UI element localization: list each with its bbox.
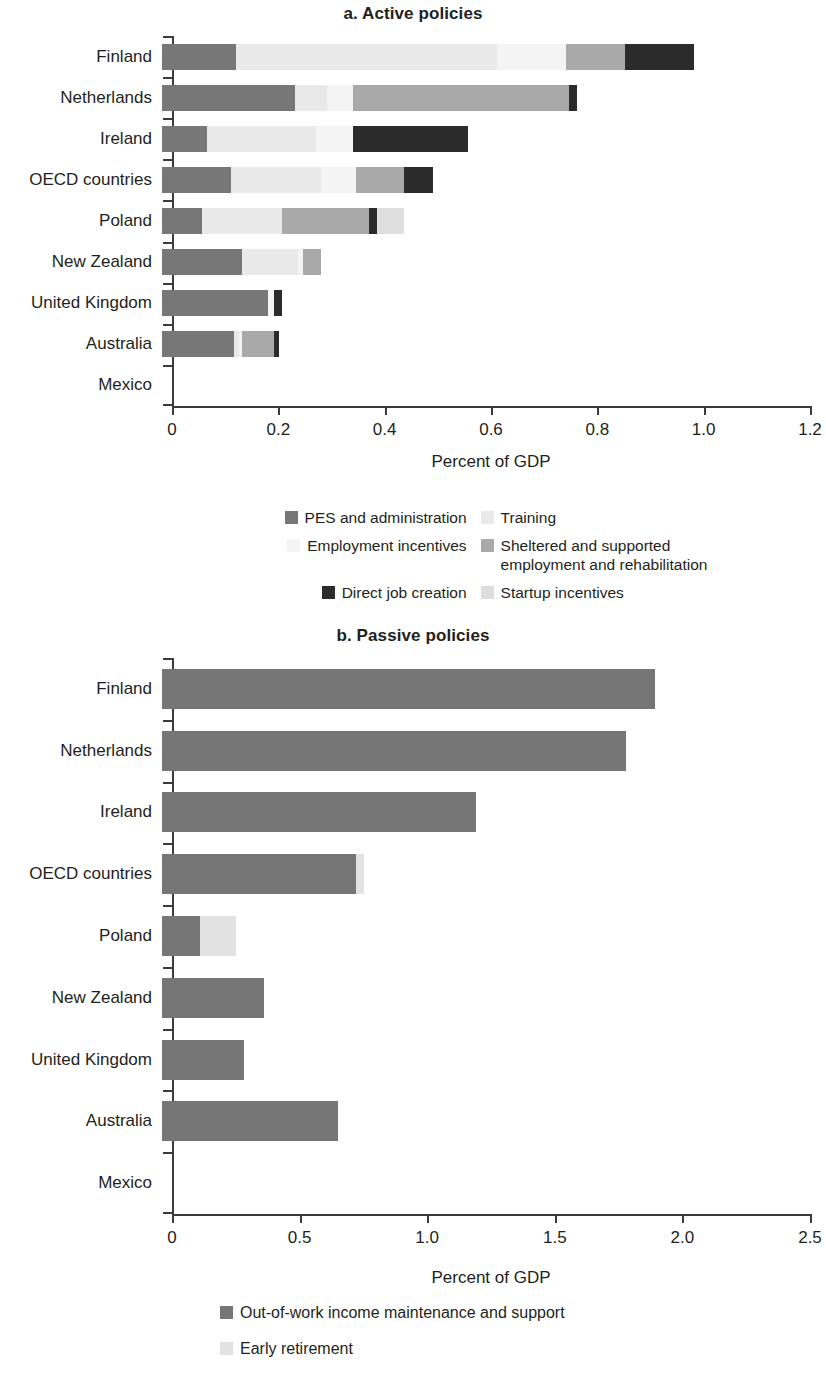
legend-item: Early retirement	[220, 1334, 820, 1364]
chart-bar-row: Australia	[0, 1090, 826, 1152]
x-axis-tick-label: 1.2	[798, 420, 822, 440]
bar-segment	[625, 44, 694, 70]
y-axis-tick	[163, 967, 172, 969]
x-axis-tick-label: 0	[167, 1228, 176, 1248]
stacked-bar	[162, 792, 476, 832]
bar-track	[162, 200, 826, 241]
bar-track	[162, 283, 826, 324]
category-label: Ireland	[0, 802, 162, 822]
legend-swatch-icon	[322, 586, 335, 599]
x-axis-tick	[597, 406, 599, 415]
category-label: Poland	[0, 926, 162, 946]
y-axis-tick	[163, 905, 172, 907]
chart-bar-row: United Kingdom	[0, 283, 826, 324]
legend-swatch-icon	[220, 1342, 233, 1355]
chart-bar-row: New Zealand	[0, 967, 826, 1029]
stacked-bar	[162, 44, 694, 70]
bar-segment	[327, 85, 354, 111]
chart-bar-row: OECD countries	[0, 159, 826, 200]
y-axis-tick	[163, 159, 172, 161]
category-label: New Zealand	[0, 252, 162, 272]
bar-segment	[497, 44, 566, 70]
chart-bar-row: Finland	[0, 36, 826, 77]
category-label: Netherlands	[0, 741, 162, 761]
category-label: Australia	[0, 334, 162, 354]
y-axis-tick	[163, 365, 172, 367]
chart-b-x-axis-line	[172, 1214, 810, 1216]
bar-segment	[162, 1101, 338, 1141]
chart-a-x-axis: 00.20.40.60.81.01.2	[0, 406, 826, 452]
chart-bar-row: Poland	[0, 905, 826, 967]
stacked-bar	[162, 1101, 338, 1141]
bar-segment	[377, 208, 404, 234]
bar-segment	[242, 331, 274, 357]
bar-segment	[162, 1040, 244, 1080]
category-label: Ireland	[0, 129, 162, 149]
y-axis-tick	[163, 720, 172, 722]
legend-swatch-icon	[481, 539, 494, 552]
x-axis-tick	[682, 1214, 684, 1223]
legend-label: Startup incentives	[501, 583, 624, 602]
bar-segment	[162, 290, 268, 316]
x-axis-tick	[555, 1214, 557, 1223]
legend-item: Startup incentives	[481, 583, 796, 602]
bar-track	[162, 36, 826, 77]
y-axis-tick	[163, 1090, 172, 1092]
category-label: Poland	[0, 211, 162, 231]
bar-segment	[200, 916, 236, 956]
legend-item: Employment incentives	[196, 536, 467, 574]
chart-b-x-axis: 00.51.01.52.02.5	[0, 1214, 826, 1260]
bar-segment	[242, 249, 298, 275]
category-label: OECD countries	[0, 170, 162, 190]
x-axis-tick-label: 1.5	[543, 1228, 567, 1248]
bar-segment	[353, 126, 467, 152]
legend-item: Sheltered and supported employment and r…	[481, 536, 796, 574]
y-axis-tick	[163, 36, 172, 38]
stacked-bar	[162, 290, 282, 316]
bar-track	[162, 242, 826, 283]
chart-a-plot-area: FinlandNetherlandsIrelandOECD countriesP…	[0, 36, 826, 406]
x-axis-tick	[491, 406, 493, 415]
bar-segment	[369, 208, 377, 234]
bar-track	[162, 159, 826, 200]
legend-swatch-icon	[481, 586, 494, 599]
y-axis-tick	[163, 782, 172, 784]
legend-label: Out-of-work income maintenance and suppo…	[240, 1298, 565, 1328]
bar-segment	[162, 85, 295, 111]
bar-segment	[316, 126, 353, 152]
bar-segment	[353, 85, 568, 111]
category-label: Australia	[0, 1111, 162, 1131]
stacked-bar	[162, 167, 433, 193]
y-axis-tick	[163, 1029, 172, 1031]
legend-item: Out-of-work income maintenance and suppo…	[220, 1298, 820, 1328]
chart-bar-row: Ireland	[0, 782, 826, 844]
bar-segment	[162, 792, 476, 832]
y-axis-tick	[163, 843, 172, 845]
x-axis-tick	[385, 406, 387, 415]
figure-page: a. Active policies FinlandNetherlandsIre…	[0, 0, 826, 1375]
x-axis-tick	[810, 1214, 812, 1223]
bar-segment	[162, 669, 655, 709]
chart-a-active-policies: a. Active policies FinlandNetherlandsIre…	[0, 0, 826, 470]
chart-a-title: a. Active policies	[0, 4, 826, 24]
chart-bar-row: Finland	[0, 658, 826, 720]
x-axis-tick-label: 1.0	[415, 1228, 439, 1248]
legend-label: Early retirement	[240, 1334, 353, 1364]
legend-label: PES and administration	[305, 508, 467, 527]
x-axis-tick-label: 2.0	[671, 1228, 695, 1248]
chart-bar-row: United Kingdom	[0, 1029, 826, 1091]
bar-segment	[162, 731, 626, 771]
chart-b-plot-area: FinlandNetherlandsIrelandOECD countriesP…	[0, 658, 826, 1214]
bar-segment	[303, 249, 322, 275]
bar-segment	[295, 85, 327, 111]
y-axis-tick	[163, 242, 172, 244]
category-label: Finland	[0, 47, 162, 67]
bar-segment	[231, 167, 321, 193]
bar-track	[162, 118, 826, 159]
category-label: United Kingdom	[0, 1050, 162, 1070]
legend-label: Employment incentives	[307, 536, 466, 555]
bar-track	[162, 720, 826, 782]
stacked-bar	[162, 669, 655, 709]
chart-bar-row: Mexico	[0, 365, 826, 406]
legend-item: Training	[481, 508, 796, 527]
